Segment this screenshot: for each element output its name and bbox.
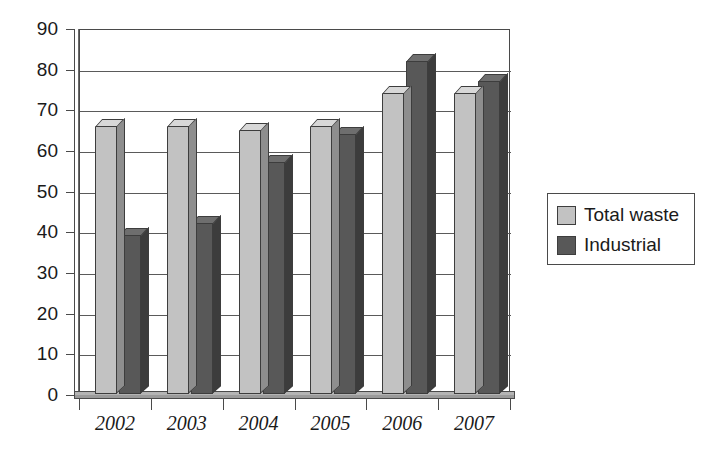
legend-label: Industrial [584, 235, 661, 255]
bar-side-face [212, 215, 221, 394]
bar-2003-total-waste [167, 126, 189, 394]
bar-2005-total-waste [310, 126, 332, 394]
gridline [80, 71, 511, 72]
legend-item-total-waste[interactable]: Total waste [557, 204, 679, 226]
gridline [80, 152, 511, 153]
bar-2006-total-waste [382, 93, 404, 394]
x-axis-tick [438, 399, 439, 410]
bar-side-face [499, 73, 508, 394]
bar-2007-total-waste [454, 93, 476, 394]
bar-front-face [382, 93, 404, 394]
legend: Total waste Industrial [547, 193, 695, 265]
y-axis-tick-label: 90 [8, 19, 58, 38]
y-axis-tick-label: 0 [8, 385, 58, 404]
x-axis-tick [510, 399, 511, 410]
bar-front-face [167, 126, 189, 394]
bar-chart: 9080706050403020100 20022003200420052006… [0, 0, 712, 462]
bar-side-face [188, 118, 197, 394]
x-axis-tick-label-2007: 2007 [438, 412, 510, 434]
x-axis-tick-label-2003: 2003 [151, 412, 223, 434]
bar-side-face [475, 85, 484, 394]
bar-2004-total-waste [239, 130, 261, 394]
bar-side-face [427, 52, 436, 394]
bar-side-face [284, 154, 293, 394]
gridline [80, 111, 511, 112]
gridline [80, 193, 511, 194]
y-axis-tick-label: 70 [8, 100, 58, 119]
x-axis-tick-label-2004: 2004 [223, 412, 295, 434]
bar-side-face [403, 85, 412, 394]
y-axis-tick-label: 80 [8, 60, 58, 79]
x-axis-tick-label-2005: 2005 [295, 412, 367, 434]
x-axis-tick [366, 399, 367, 410]
bar-front-face [454, 93, 476, 394]
y-axis-tick-label: 60 [8, 141, 58, 160]
bar-side-face [116, 118, 125, 394]
bar-side-face [260, 122, 269, 394]
bar-side-face [355, 126, 364, 394]
bar-front-face [310, 126, 332, 394]
bar-2002-total-waste [95, 126, 117, 394]
y-axis-tick-label: 10 [8, 344, 58, 363]
x-axis-tick-label-2006: 2006 [366, 412, 438, 434]
x-axis-tick-label-2002: 2002 [79, 412, 151, 434]
legend-swatch-icon [557, 236, 576, 255]
legend-item-industrial[interactable]: Industrial [557, 234, 661, 256]
bar-front-face [95, 126, 117, 394]
legend-swatch-icon [557, 206, 576, 225]
x-axis-tick [79, 399, 80, 410]
y-axis-tick-label: 30 [8, 263, 58, 282]
legend-label: Total waste [584, 205, 679, 225]
plot-area [79, 29, 510, 395]
y-axis-tick-label: 50 [8, 182, 58, 201]
x-axis-tick [295, 399, 296, 410]
y-axis-tick-label: 20 [8, 304, 58, 323]
bar-side-face [140, 227, 149, 394]
bar-front-face [239, 130, 261, 394]
bar-side-face [331, 118, 340, 394]
x-axis-tick [223, 399, 224, 410]
x-axis-tick [151, 399, 152, 410]
y-axis-tick-label: 40 [8, 222, 58, 241]
